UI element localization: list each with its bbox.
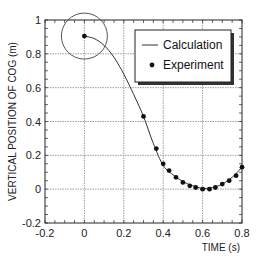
experiment-point (220, 182, 225, 187)
experiment-point (193, 185, 198, 190)
y-tick-label: 1 (35, 14, 41, 26)
x-tick-label: 0.4 (156, 227, 171, 239)
experiment-point (174, 175, 179, 180)
legend-label-calculation: Calculation (163, 38, 222, 52)
y-axis-label: VERTICAL POSITION OF COG (m) (7, 42, 18, 201)
legend-label-experiment: Experiment (163, 58, 224, 72)
experiment-point (213, 185, 218, 190)
y-tick-label: 0.4 (26, 116, 41, 128)
experiment-point (227, 178, 232, 183)
experiment-point (82, 34, 87, 39)
experiment-point (141, 114, 146, 119)
y-tick-label: -0.2 (22, 217, 41, 229)
experiment-point (187, 183, 192, 188)
experiment-point (207, 187, 212, 192)
x-axis-label: TIME (s) (202, 242, 240, 253)
x-tick-label: 0.6 (195, 227, 210, 239)
y-tick-label: 0 (35, 183, 41, 195)
legend: Calculation Experiment (135, 30, 234, 85)
experiment-point (181, 180, 186, 185)
legend-dot-icon (150, 63, 155, 68)
chart: -0.200.20.40.60.8 -0.200.20.40.60.81 TIM… (0, 0, 257, 260)
x-tick-label: 0.2 (116, 227, 131, 239)
experiment-point (240, 165, 245, 170)
y-tick-label: 0.6 (26, 82, 41, 94)
x-tick-label: 0.8 (234, 227, 249, 239)
experiment-point (167, 168, 172, 173)
experiment-point (234, 173, 239, 178)
experiment-point (161, 161, 166, 166)
x-tick-label: 0 (81, 227, 87, 239)
x-tick-labels: -0.200.20.40.60.8 (36, 227, 250, 239)
experiment-point (154, 146, 159, 151)
y-tick-label: 0.2 (26, 149, 41, 161)
y-tick-label: 0.8 (26, 48, 41, 60)
experiment-point (200, 187, 205, 192)
y-tick-labels: -0.200.20.40.60.81 (22, 14, 41, 229)
